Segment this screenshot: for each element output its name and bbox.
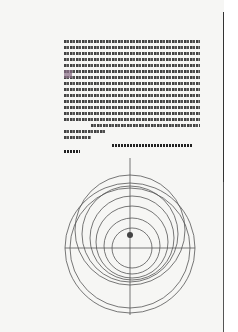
decorated-initial bbox=[64, 70, 72, 78]
page-edge bbox=[223, 12, 224, 182]
manuscript-page bbox=[0, 0, 224, 332]
diagram-caption bbox=[112, 144, 192, 147]
text-block bbox=[64, 40, 200, 140]
orbit-diagram bbox=[60, 150, 200, 320]
page-edge-lower bbox=[223, 182, 224, 332]
marginal-note bbox=[205, 308, 219, 316]
